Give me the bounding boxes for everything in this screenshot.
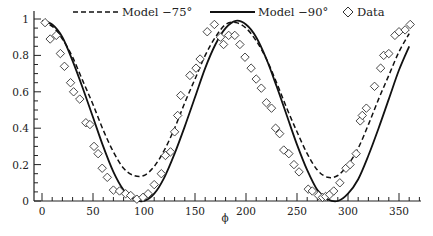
legend: Model −75° Model −90° Data — [73, 5, 385, 19]
plot-series — [41, 18, 415, 203]
x-tick-label: 150 — [185, 205, 205, 217]
data-point-diamond-icon — [98, 164, 106, 172]
x-tick-label: 300 — [338, 205, 358, 217]
data-point-diamond-icon — [336, 179, 344, 187]
data-point-diamond-icon — [103, 173, 111, 181]
x-tick-label: 50 — [86, 205, 99, 217]
legend-label-data: Data — [357, 5, 385, 19]
data-point-diamond-icon — [257, 84, 265, 92]
y-tick-label: 0.4 — [12, 122, 29, 134]
y-tick-label: 1 — [22, 13, 29, 25]
data-point-diamond-icon — [94, 149, 102, 157]
data-markers — [41, 18, 415, 203]
data-point-diamond-icon — [177, 91, 185, 99]
data-point-diamond-icon — [376, 64, 384, 72]
data-point-diamond-icon — [362, 104, 370, 112]
legend-label-model-90: Model −90° — [258, 5, 328, 19]
data-point-diamond-icon — [56, 49, 64, 57]
x-axis-title: ϕ — [221, 212, 228, 224]
data-point-diamond-icon — [90, 142, 98, 150]
data-point-diamond-icon — [76, 95, 84, 103]
y-tick-label: 0.8 — [12, 49, 29, 61]
data-point-diamond-icon — [241, 53, 249, 61]
x-tick-label: 200 — [236, 205, 256, 217]
y-tick-label: 0 — [22, 195, 29, 207]
data-point-diamond-icon — [41, 18, 49, 26]
y-tick-label: 0.6 — [12, 86, 29, 98]
y-tick-label: 0.2 — [12, 159, 29, 171]
data-point-diamond-icon — [247, 64, 255, 72]
data-point-diamond-icon — [60, 62, 68, 70]
data-point-diamond-icon — [210, 20, 218, 28]
data-point-diamond-icon — [150, 180, 158, 188]
legend-diamond-icon — [343, 7, 353, 17]
data-point-diamond-icon — [196, 55, 204, 63]
data-point-diamond-icon — [370, 82, 378, 90]
x-tick-label: 0 — [39, 205, 46, 217]
legend-label-model-75: Model −75° — [122, 5, 192, 19]
data-point-diamond-icon — [66, 79, 74, 87]
data-point-diamond-icon — [295, 168, 303, 176]
chart: Model −75° Model −90° Data 00.20.40.60.8… — [0, 0, 433, 236]
data-point-diamond-icon — [203, 28, 211, 36]
x-tick-label: 250 — [287, 205, 307, 217]
data-point-diamond-icon — [69, 88, 77, 96]
x-tick-label: 350 — [389, 205, 409, 217]
y-axis: 00.20.40.60.81 — [12, 11, 41, 207]
data-point-diamond-icon — [236, 40, 244, 48]
data-point-diamond-icon — [252, 75, 260, 83]
data-point-diamond-icon — [231, 31, 239, 39]
model-90-curve — [42, 21, 409, 202]
data-point-diamond-icon — [186, 71, 194, 79]
x-tick-label: 100 — [134, 205, 154, 217]
data-point-diamond-icon — [290, 160, 298, 168]
